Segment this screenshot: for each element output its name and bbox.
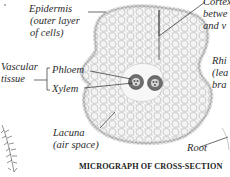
epidermis-label: Epidermis bbox=[29, 3, 72, 14]
rhizome-label: Rhi bbox=[212, 55, 227, 66]
vascular-bundle-left bbox=[129, 75, 144, 90]
cortex-desc-line2: and v bbox=[203, 20, 226, 31]
cross-section-body bbox=[82, 6, 211, 143]
fern-frond-drawing bbox=[1, 125, 17, 172]
lacuna-desc: (air space) bbox=[53, 139, 99, 150]
figure-caption: MICROGRAPH OF CROSS-SECTION bbox=[79, 162, 222, 171]
epidermis-desc-line1: (outer layer bbox=[30, 15, 80, 26]
lacuna-label: Lacuna bbox=[53, 127, 85, 138]
cortex-desc-line1: betwe bbox=[203, 8, 228, 19]
cortex-label: Cortex bbox=[203, 0, 230, 7]
phloem-label: Phloem bbox=[52, 64, 84, 75]
epidermis-desc-line2: of cells) bbox=[30, 27, 64, 38]
speck bbox=[4, 4, 6, 6]
vascular-tissue-label: Vascular bbox=[1, 61, 38, 72]
rhizome-desc-line2: bra bbox=[212, 79, 227, 90]
rhizome-desc-line1: (lea bbox=[212, 67, 228, 78]
vascular-bundle-right bbox=[148, 76, 163, 91]
xylem-label: Xylem bbox=[52, 83, 78, 94]
root-label: Root bbox=[187, 142, 207, 153]
vascular-tissue-label-line2: tissue bbox=[1, 73, 25, 84]
